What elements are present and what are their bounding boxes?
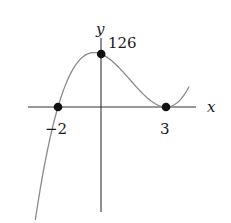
y-intercept-label: 126 <box>108 34 137 52</box>
point-marker <box>97 50 106 59</box>
x-tick-3: 3 <box>160 120 170 138</box>
cubic-graph: y 126 x −2 3 <box>0 0 231 223</box>
point-marker <box>54 103 63 112</box>
x-axis-label: x <box>207 98 216 116</box>
y-axis-label: y <box>95 20 105 38</box>
x-tick-neg2: −2 <box>45 120 67 138</box>
point-marker <box>162 103 171 112</box>
